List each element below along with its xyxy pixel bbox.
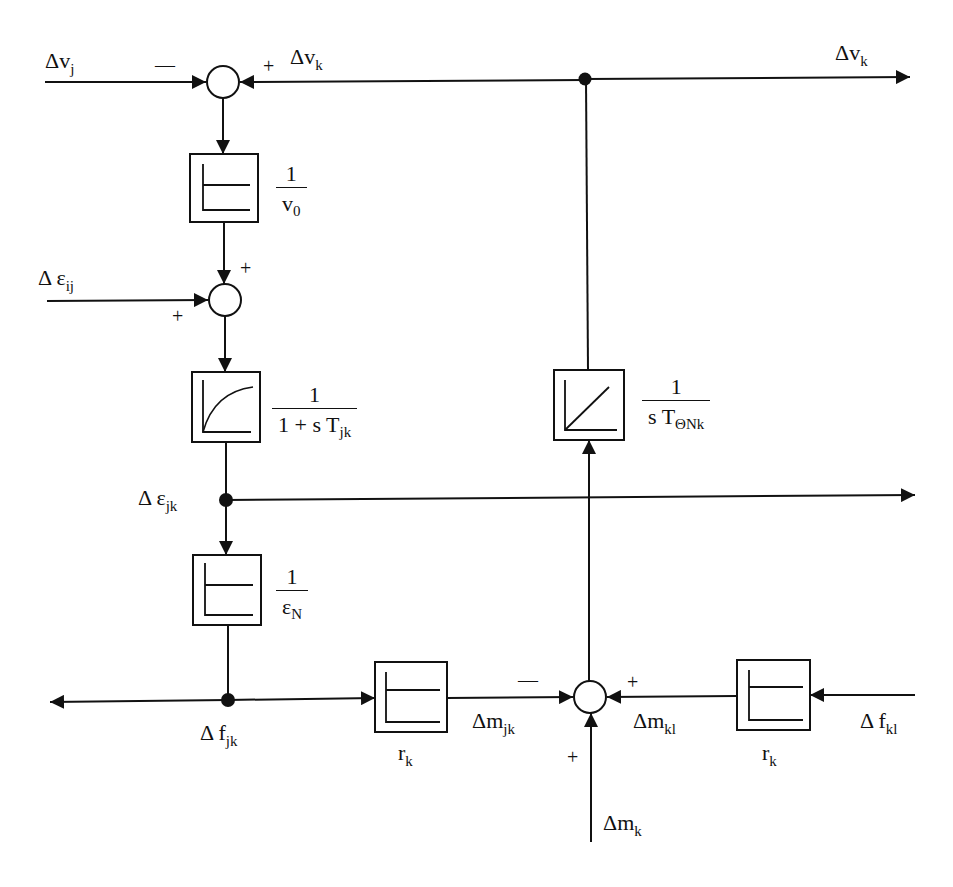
sign-sum3-right: + xyxy=(627,672,638,692)
tf-integrator: 1 s TΘNk xyxy=(642,375,710,433)
label-de-jk: Δ εjk xyxy=(138,487,177,514)
label-dv-k-out: Δvk xyxy=(835,42,868,69)
label-dv-j: Δvj xyxy=(45,50,74,77)
wire-de-jk-out xyxy=(226,495,915,500)
branch-node-df-jk xyxy=(221,693,235,707)
tf-1-over-v0: 1 v0 xyxy=(276,162,307,220)
tf-first-order-lag: 1 1 + s Tjk xyxy=(272,383,357,441)
wire-dvk-out xyxy=(585,77,910,79)
wire-node-rk1 xyxy=(228,698,375,700)
label-rk-1: rk xyxy=(398,742,413,769)
label-dm-k: Δmk xyxy=(603,812,642,839)
wire-dm-kl xyxy=(607,696,737,697)
branch-node-dvk xyxy=(579,73,592,86)
label-dm-jk: Δmjk xyxy=(472,710,515,737)
label-rk-2: rk xyxy=(762,742,777,769)
label-df-kl: Δ fkl xyxy=(860,710,897,737)
tf-1-over-eN: 1 εN xyxy=(276,565,308,623)
sign-sum3-bottom: + xyxy=(567,747,578,767)
summing-junction-2 xyxy=(209,284,241,316)
wire-dvk-feedback xyxy=(240,80,585,82)
summing-junction-3 xyxy=(574,681,606,713)
summing-junction-1 xyxy=(207,66,239,98)
wire-de-ij xyxy=(47,300,208,301)
branch-node-de-jk xyxy=(219,493,233,507)
block-diagram-canvas xyxy=(0,0,953,887)
sign-sum3-left: — xyxy=(518,670,538,690)
label-de-ij: Δ εij xyxy=(38,267,74,294)
sign-sum2-left: + xyxy=(172,306,183,326)
label-dv-k-in: Δvk xyxy=(290,46,323,73)
sign-sum2-top: + xyxy=(240,258,251,278)
label-dm-kl: Δmkl xyxy=(633,710,676,737)
sign-sum1-right: + xyxy=(263,56,274,76)
label-df-jk: Δ fjk xyxy=(200,722,237,749)
sign-sum1-left: — xyxy=(155,55,175,75)
wire-dm-jk xyxy=(447,697,573,698)
block-1-over-v0 xyxy=(190,154,258,222)
wire-b4-node xyxy=(586,80,588,370)
wire-df-jk-out xyxy=(50,700,228,702)
